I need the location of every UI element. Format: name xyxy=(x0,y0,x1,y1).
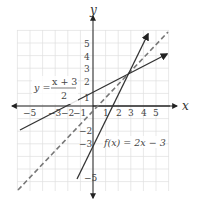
x-tick: 5 xyxy=(153,108,159,118)
x-tick: 4 xyxy=(141,108,147,118)
svg-text:x + 3: x + 3 xyxy=(52,76,77,87)
x-axis-label: x xyxy=(182,99,189,113)
svg-text:f(x) = 2x − 3: f(x) = 2x − 3 xyxy=(103,137,166,148)
equation-label-2: f(x) = 2x − 3 xyxy=(103,136,166,148)
y-tick: −3 xyxy=(79,139,93,149)
graph: x y −5 −3 −2 −1 1 2 3 4 5 5 4 3 2 1 −2 −… xyxy=(0,0,199,209)
y-tick: 4 xyxy=(84,52,90,62)
x-tick: 2 xyxy=(116,108,122,118)
svg-text:2: 2 xyxy=(61,90,67,101)
y-axis-label: y xyxy=(89,3,97,17)
y-tick: 2 xyxy=(84,77,90,87)
equation-label-1: y = x + 3 2 xyxy=(32,76,78,104)
y-tick: 5 xyxy=(84,39,90,49)
y-tick: 3 xyxy=(84,64,90,74)
x-tick: −5 xyxy=(23,108,37,118)
svg-text:y =: y = xyxy=(33,82,50,93)
x-tick: 3 xyxy=(128,108,134,118)
y-tick: −5 xyxy=(84,173,98,183)
y-tick: −2 xyxy=(79,126,92,136)
x-tick: −1 xyxy=(73,108,86,118)
